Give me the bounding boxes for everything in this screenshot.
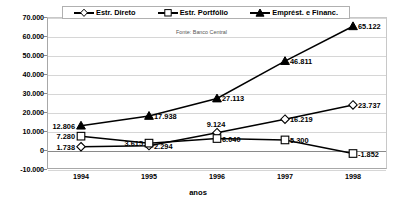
y-axis-tick-label: 0 — [0, 146, 44, 155]
y-axis-tick-mark — [44, 36, 47, 37]
x-axis-title: anos — [0, 188, 396, 197]
data-label: 5.300 — [290, 135, 309, 144]
legend-item-estr-portfolio[interactable]: Estr. Portfólio — [158, 8, 228, 17]
gridline — [48, 170, 386, 171]
y-axis-tick-label: 70.000 — [0, 13, 44, 22]
y-axis-tick-label: 40.000 — [0, 70, 44, 79]
y-axis-tick-mark — [44, 150, 47, 151]
y-axis-tick-label: 20.000 — [0, 108, 44, 117]
plot-area — [47, 17, 387, 169]
data-label: 7.280 — [57, 132, 76, 141]
legend-item-emprest-financ[interactable]: Emprést. e Financ. — [250, 8, 338, 17]
x-axis-tick-label: 1996 — [209, 172, 225, 181]
triangle-marker-icon — [250, 8, 270, 17]
y-axis-tick-mark — [44, 131, 47, 132]
y-axis-tick-mark — [44, 169, 47, 170]
gridline — [48, 56, 386, 57]
data-label: 2.294 — [154, 141, 173, 150]
data-label: 9.124 — [207, 119, 226, 128]
data-label: 12.806 — [52, 121, 75, 130]
y-axis-tick-label: 50.000 — [0, 51, 44, 60]
diamond-marker-icon — [74, 8, 94, 17]
gridline — [48, 94, 386, 95]
data-label: -1.852 — [358, 149, 379, 158]
y-axis-tick-label: 30.000 — [0, 89, 44, 98]
data-label: 65.122 — [358, 22, 381, 31]
gridline — [48, 151, 386, 152]
y-axis-tick-mark — [44, 55, 47, 56]
data-label: 3.615 — [125, 139, 144, 148]
data-label: 27.113 — [222, 94, 244, 103]
y-axis-tick-mark — [44, 112, 47, 113]
y-axis-tick-mark — [44, 17, 47, 18]
data-label: 23.737 — [358, 100, 381, 109]
square-marker-icon — [158, 8, 178, 17]
x-axis-tick-label: 1998 — [345, 172, 361, 181]
data-label: 17.938 — [154, 111, 177, 120]
legend-label: Estr. Direto — [96, 8, 135, 17]
data-label: 6.040 — [222, 134, 241, 143]
legend-label: Estr. Portfólio — [180, 8, 228, 17]
legend-label: Emprést. e Financ. — [272, 8, 338, 17]
y-axis-tick-label: -10.000 — [0, 165, 44, 174]
gridline — [48, 75, 386, 76]
y-axis-tick-mark — [44, 93, 47, 94]
data-label: 16.219 — [290, 115, 313, 124]
y-axis-tick-mark — [44, 74, 47, 75]
legend: Estr. Direto Estr. Portfólio Emprést. e … — [62, 6, 350, 19]
x-axis-tick-label: 1994 — [73, 172, 89, 181]
data-label: 1.738 — [57, 142, 76, 151]
gridline — [48, 132, 386, 133]
legend-item-estr-direto[interactable]: Estr. Direto — [74, 8, 135, 17]
source-note: Fonte: Banco Central — [176, 29, 227, 35]
data-label: 46.811 — [290, 57, 312, 66]
x-axis-tick-label: 1995 — [141, 172, 157, 181]
chart-container: -10.000010.00020.00030.00040.00050.00060… — [0, 0, 396, 204]
gridline — [48, 37, 386, 38]
y-axis-tick-label: 10.000 — [0, 127, 44, 136]
gridline — [48, 113, 386, 114]
y-axis-tick-label: 60.000 — [0, 32, 44, 41]
x-axis-tick-label: 1997 — [277, 172, 293, 181]
